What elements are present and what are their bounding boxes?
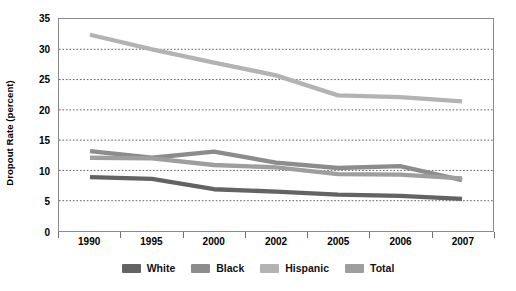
x-tick-label-2000: 2000: [184, 236, 244, 247]
x-tick-label-1990: 1990: [59, 236, 119, 247]
legend-item-white[interactable]: White: [122, 262, 176, 274]
y-tick-label: 10: [10, 165, 50, 176]
y-tick-label: 20: [10, 104, 50, 115]
legend-label: White: [147, 262, 176, 274]
y-tick-label: 35: [10, 13, 50, 24]
x-tick-label-2002: 2002: [246, 236, 306, 247]
legend-item-total[interactable]: Total: [345, 262, 394, 274]
y-tick-label: 0: [10, 227, 50, 238]
x-tick-label-2006: 2006: [371, 236, 431, 247]
legend-label: Total: [370, 262, 394, 274]
y-tick-label: 5: [10, 196, 50, 207]
x-tick-mark: [494, 232, 495, 238]
x-tick-label-2007: 2007: [433, 236, 493, 247]
legend-item-black[interactable]: Black: [191, 262, 244, 274]
legend-swatch-icon: [191, 264, 210, 273]
legend-swatch-icon: [122, 264, 141, 273]
chart-title: [0, 0, 516, 8]
plot-area: [58, 18, 494, 232]
x-tick-label-2005: 2005: [308, 236, 368, 247]
series-line-white: [90, 177, 462, 199]
series-lines: [59, 19, 493, 231]
y-tick-label: 30: [10, 43, 50, 54]
x-tick-label-1995: 1995: [121, 236, 181, 247]
legend-item-hispanic[interactable]: Hispanic: [260, 262, 329, 274]
legend-label: Hispanic: [285, 262, 329, 274]
series-line-hispanic: [90, 35, 462, 102]
chart-legend: WhiteBlackHispanicTotal: [0, 262, 516, 274]
y-tick-label: 25: [10, 74, 50, 85]
legend-swatch-icon: [260, 264, 279, 273]
legend-swatch-icon: [345, 264, 364, 273]
legend-label: Black: [216, 262, 244, 274]
y-tick-label: 15: [10, 135, 50, 146]
dropout-rate-line-chart: Dropout Rate (percent) 05101520253035 19…: [0, 0, 516, 291]
